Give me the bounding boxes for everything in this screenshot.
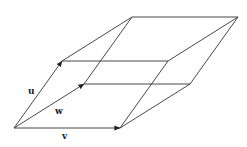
edge-vw-to-uvw xyxy=(190,17,238,84)
edge-uv-to-uvw xyxy=(168,17,238,61)
edge-v-to-vw xyxy=(120,84,190,128)
edge-w-to-uw xyxy=(84,17,132,84)
edge-v-to-uv xyxy=(120,61,168,128)
vector-u-arrow xyxy=(14,61,62,128)
edge-u-to-uw xyxy=(62,17,132,61)
label-w: w xyxy=(54,106,63,116)
vector-w-arrow xyxy=(14,84,84,128)
label-u: u xyxy=(28,86,35,96)
parallelepiped-diagram: u w v xyxy=(0,0,247,147)
label-v: v xyxy=(61,131,68,141)
